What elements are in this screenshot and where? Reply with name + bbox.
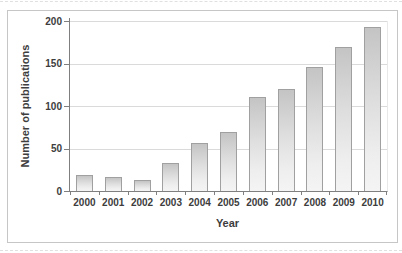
bar-2009 bbox=[335, 47, 352, 192]
x-tick-mark-6 bbox=[243, 191, 244, 195]
x-tick-mark-10 bbox=[358, 191, 359, 195]
document-page: Number of publications 05010015020020002… bbox=[0, 0, 402, 253]
x-tick-mark-0 bbox=[70, 191, 71, 195]
y-tick-mark-150 bbox=[64, 64, 69, 65]
x-tick-mark-11 bbox=[386, 191, 387, 195]
chart-frame: Number of publications 05010015020020002… bbox=[7, 10, 398, 243]
x-tick-mark-7 bbox=[272, 191, 273, 195]
y-axis-title: Number of publications bbox=[19, 45, 31, 168]
bar-2005 bbox=[220, 132, 237, 191]
bar-2000 bbox=[76, 175, 93, 191]
x-tick-mark-2 bbox=[128, 191, 129, 195]
x-tick-label-2004: 2004 bbox=[189, 198, 211, 208]
bar-2001 bbox=[105, 177, 122, 191]
x-tick-mark-3 bbox=[156, 191, 157, 195]
bar-2003 bbox=[162, 163, 179, 191]
bar-2002 bbox=[134, 180, 151, 191]
y-tick-label-50: 50 bbox=[51, 144, 62, 154]
plot-area: 0501001502002000200120022003200420052006… bbox=[69, 21, 388, 192]
bar-2006 bbox=[249, 97, 266, 191]
x-tick-mark-9 bbox=[329, 191, 330, 195]
x-tick-label-2006: 2006 bbox=[246, 198, 268, 208]
x-tick-mark-1 bbox=[99, 191, 100, 195]
page-edge-artifact-top bbox=[0, 1, 402, 2]
y-tick-mark-100 bbox=[64, 106, 69, 107]
x-axis-title: Year bbox=[69, 217, 386, 229]
bar-2008 bbox=[306, 67, 323, 191]
x-tick-label-2000: 2000 bbox=[73, 198, 95, 208]
bar-2010 bbox=[364, 27, 381, 191]
x-tick-label-2005: 2005 bbox=[217, 198, 239, 208]
x-tick-label-2002: 2002 bbox=[131, 198, 153, 208]
x-tick-mark-8 bbox=[301, 191, 302, 195]
x-tick-label-2003: 2003 bbox=[160, 198, 182, 208]
x-tick-label-2009: 2009 bbox=[333, 198, 355, 208]
x-tick-label-2008: 2008 bbox=[304, 198, 326, 208]
x-tick-mark-5 bbox=[214, 191, 215, 195]
gridline-y-200 bbox=[70, 21, 387, 22]
x-tick-mark-4 bbox=[185, 191, 186, 195]
bar-2007 bbox=[278, 89, 295, 191]
y-tick-label-0: 0 bbox=[56, 187, 62, 197]
bar-2004 bbox=[191, 143, 208, 191]
x-tick-label-2007: 2007 bbox=[275, 198, 297, 208]
y-tick-label-150: 150 bbox=[45, 59, 62, 69]
page-edge-artifact-bottom bbox=[0, 250, 402, 251]
y-tick-mark-50 bbox=[64, 149, 69, 150]
y-tick-label-200: 200 bbox=[45, 17, 62, 27]
x-tick-label-2001: 2001 bbox=[102, 198, 124, 208]
y-tick-mark-200 bbox=[64, 21, 69, 22]
y-tick-mark-0 bbox=[64, 191, 69, 192]
y-tick-label-100: 100 bbox=[45, 102, 62, 112]
x-tick-label-2010: 2010 bbox=[361, 198, 383, 208]
